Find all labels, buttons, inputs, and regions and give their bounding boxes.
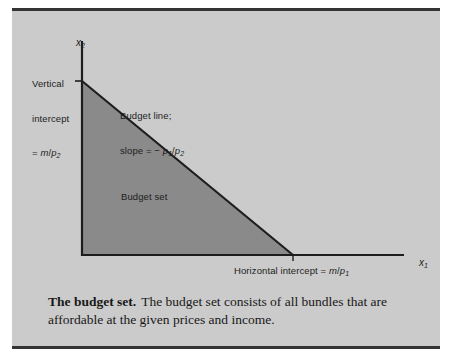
textbook-page-panel: x2 x1 Vertical intercept = m/p2 Budget l…: [12, 8, 440, 349]
vertical-intercept-line-3: = m/p2: [32, 147, 69, 162]
vertical-intercept-annotation: Vertical intercept = m/p2: [32, 55, 69, 185]
caption-title: The budget set.: [48, 294, 136, 309]
budget-line-annotation: Budget line; slope = − p1/p2: [120, 87, 184, 182]
budget-line-caption-line-1: Budget line;: [120, 110, 184, 122]
x-axis-label: x1: [419, 257, 428, 269]
budget-line-slope-line: slope = − p1/p2: [120, 145, 184, 160]
y-axis-label: x2: [76, 37, 85, 49]
plot-area: x2 x1 Vertical intercept = m/p2 Budget l…: [12, 11, 440, 276]
vertical-intercept-line-2: intercept: [32, 113, 69, 125]
budget-set-annotation: Budget set: [121, 191, 167, 203]
figure-page: x2 x1 Vertical intercept = m/p2 Budget l…: [0, 0, 452, 363]
budget-set-plot: [12, 11, 440, 276]
figure-caption: The budget set.The budget set consists o…: [48, 293, 418, 328]
vertical-intercept-line-1: Vertical: [32, 78, 69, 90]
horizontal-intercept-annotation: Horizontal intercept = m/p1: [234, 265, 349, 280]
